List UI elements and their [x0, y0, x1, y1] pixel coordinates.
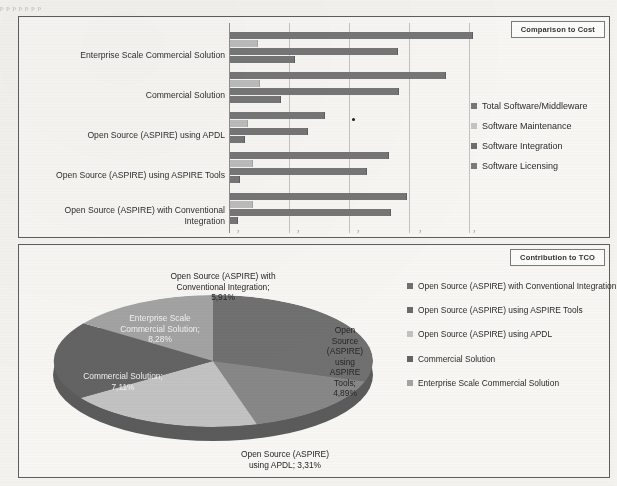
bar-software-integration	[230, 209, 391, 216]
bar-software-integration	[230, 128, 308, 135]
legend-item-label: Open Source (ASPIRE) using ASPIRE Tools	[418, 305, 583, 316]
scan-artifact-curl: ’	[418, 226, 422, 242]
legend-item-total-software-middleware[interactable]: Total Software/Middleware	[471, 101, 611, 111]
bar-software-licensing	[230, 56, 295, 63]
bar-category-label: Open Source (ASPIRE) with Conventional I…	[33, 205, 225, 227]
bar-chart-series-groups	[230, 23, 494, 233]
legend-swatch-icon	[471, 163, 477, 169]
bar-total-software-middleware	[230, 152, 389, 159]
legend-item-label: Open Source (ASPIRE) using APDL	[418, 329, 552, 340]
pie-chart-container: Contribution to TCO	[18, 244, 610, 478]
legend-item-enterprise-scale[interactable]: Enterprise Scale Commercial Solution	[407, 378, 617, 389]
bar-software-maintenance	[230, 40, 258, 47]
bar-software-integration	[230, 168, 367, 175]
pie-label-commercial-solution: Commercial Solution;7,11%	[55, 371, 191, 392]
bar-software-maintenance	[230, 80, 260, 87]
legend-item-label: Software Maintenance	[482, 121, 572, 131]
bar-total-software-middleware	[230, 72, 446, 79]
bar-software-licensing	[230, 217, 238, 224]
legend-swatch-icon	[471, 143, 477, 149]
bar-software-integration	[230, 88, 399, 95]
pie-label-enterprise-scale: Enterprise ScaleCommercial Solution;8,28…	[95, 313, 225, 345]
legend-swatch-icon	[471, 123, 477, 129]
scan-artifact-curl: ’	[296, 226, 300, 242]
pie-label-apdl: Open Source (ASPIRE)using APDL; 3,31%	[205, 449, 365, 470]
bar-software-licensing	[230, 96, 281, 103]
bar-chart-title: Comparison to Cost	[511, 21, 605, 38]
pie-label-aspire-tools: OpenSource(ASPIRE)usingASPIRETools;4,89%	[315, 325, 375, 399]
bar-software-licensing	[230, 176, 240, 183]
legend-item-apdl[interactable]: Open Source (ASPIRE) using APDL	[407, 329, 617, 340]
bar-software-maintenance	[230, 160, 253, 167]
scan-artifact-curl: ’	[236, 226, 240, 242]
pie-chart-title: Contribution to TCO	[510, 249, 605, 266]
legend-item-software-integration[interactable]: Software Integration	[471, 141, 611, 151]
legend-item-label: Software Integration	[482, 141, 563, 151]
bar-category-label: Open Source (ASPIRE) using ASPIRE Tools	[33, 170, 225, 181]
legend-swatch-icon	[407, 331, 413, 337]
legend-swatch-icon	[471, 103, 477, 109]
pie-chart-plot-area: Open Source (ASPIRE) withConventional In…	[43, 271, 391, 467]
page-faint-header: p p p p p p p	[0, 4, 160, 11]
bar-software-integration	[230, 48, 398, 55]
legend-item-software-maintenance[interactable]: Software Maintenance	[471, 121, 611, 131]
legend-item-label: Software Licensing	[482, 161, 558, 171]
bar-group	[230, 67, 494, 107]
legend-item-aspire-tools[interactable]: Open Source (ASPIRE) using ASPIRE Tools	[407, 305, 617, 316]
legend-swatch-icon	[407, 380, 413, 386]
legend-item-label: Enterprise Scale Commercial Solution	[418, 378, 559, 389]
bar-chart-legend: Total Software/Middleware Software Maint…	[471, 101, 611, 181]
legend-item-label: Commercial Solution	[418, 354, 495, 365]
bar-chart-category-axis: Enterprise Scale Commercial Solution Com…	[33, 23, 225, 233]
bar-total-software-middleware	[230, 112, 325, 119]
legend-swatch-icon	[407, 356, 413, 362]
bar-total-software-middleware	[230, 32, 473, 39]
legend-item-label: Total Software/Middleware	[482, 101, 588, 111]
legend-item-software-licensing[interactable]: Software Licensing	[471, 161, 611, 171]
legend-item-conventional-integration[interactable]: Open Source (ASPIRE) with Conventional I…	[407, 281, 617, 292]
bar-chart-container: Comparison to Cost Enterprise Scale Comm…	[18, 16, 610, 238]
bar-group	[230, 187, 494, 229]
bar-group	[230, 27, 494, 67]
legend-item-commercial-solution[interactable]: Commercial Solution	[407, 354, 617, 365]
bar-total-software-middleware	[230, 193, 407, 200]
scan-artifact-curl: ’	[472, 226, 476, 242]
bar-category-label: Open Source (ASPIRE) using APDL	[33, 130, 225, 141]
bar-chart-plot-area	[229, 23, 494, 233]
bar-group	[230, 107, 494, 147]
legend-swatch-icon	[407, 283, 413, 289]
legend-swatch-icon	[407, 307, 413, 313]
pie-chart-legend: Open Source (ASPIRE) with Conventional I…	[407, 281, 617, 402]
scan-artifact-dot	[352, 118, 355, 121]
bar-software-maintenance	[230, 120, 248, 127]
bar-category-label: Commercial Solution	[33, 90, 225, 101]
bar-group	[230, 147, 494, 187]
scan-artifact-curl: ’	[356, 226, 360, 242]
bar-software-licensing	[230, 136, 245, 143]
pie-label-conventional-integration: Open Source (ASPIRE) withConventional In…	[143, 271, 303, 303]
bar-software-maintenance	[230, 201, 253, 208]
bar-category-label: Enterprise Scale Commercial Solution	[33, 50, 225, 61]
legend-item-label: Open Source (ASPIRE) with Conventional I…	[418, 281, 616, 292]
